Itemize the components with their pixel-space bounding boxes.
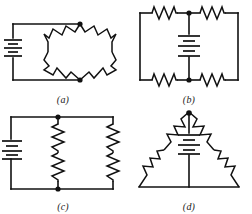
circuit-diagram-d	[126, 107, 252, 214]
circuit-panel-c: (c)	[0, 107, 126, 214]
panel-label-c: (c)	[0, 201, 126, 212]
resistor-d-right-lower	[214, 150, 239, 187]
node-dot-c-bottom	[55, 186, 60, 191]
resistor-b-top-left	[152, 7, 178, 19]
node-dot-b-top	[186, 10, 191, 15]
circuit-panel-b: (b)	[126, 0, 252, 107]
resistor-b-bottom-right	[200, 74, 226, 86]
panel-label-a: (a)	[0, 94, 126, 105]
node-dot-b-bottom	[186, 77, 191, 82]
resistor-a-top-right	[80, 24, 116, 52]
resistor-a-bottom-left	[44, 52, 80, 80]
circuit-panel-d: (d)	[126, 107, 252, 214]
battery-a	[4, 40, 22, 56]
node-dot-a-top	[77, 21, 82, 26]
battery-c	[2, 141, 22, 159]
resistor-c-middle-upper	[52, 124, 64, 153]
circuit-panel-a: (a)	[0, 0, 126, 107]
resistor-a-bottom-right	[80, 52, 116, 80]
panel-label-d: (d)	[126, 201, 252, 212]
wiring-c	[11, 117, 113, 189]
circuit-diagram-a	[0, 0, 126, 107]
resistor-c-right-lower	[107, 153, 119, 182]
circuit-diagram-c	[0, 107, 126, 214]
battery-b	[178, 36, 200, 56]
resistor-c-middle-lower	[52, 153, 64, 182]
node-dot-c-top	[55, 114, 60, 119]
resistor-b-bottom-left	[152, 74, 178, 86]
circuit-diagram-b	[126, 0, 252, 107]
battery-d	[178, 135, 200, 154]
figure-sheet: (a)	[0, 0, 252, 214]
resistor-a-top-left	[44, 24, 80, 52]
resistor-c-right-upper	[107, 124, 119, 153]
panel-label-b: (b)	[126, 94, 252, 105]
node-dot-a-bottom	[77, 77, 82, 82]
node-dot-d-apex	[186, 110, 192, 116]
resistor-d-left-lower	[139, 150, 164, 187]
resistor-b-top-right	[200, 7, 226, 19]
